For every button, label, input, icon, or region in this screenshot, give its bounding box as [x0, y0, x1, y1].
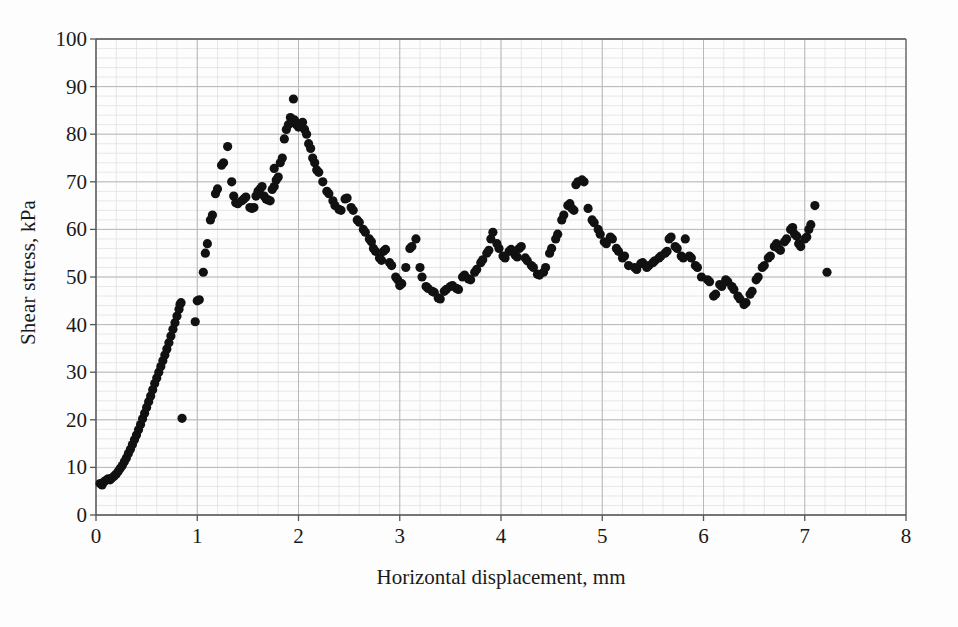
- x-axis-title: Horizontal displacement, mm: [96, 565, 906, 590]
- x-tick-label: 2: [293, 524, 304, 549]
- data-point: [278, 153, 287, 162]
- data-point: [381, 245, 390, 254]
- data-point: [547, 244, 556, 253]
- data-point: [711, 290, 720, 299]
- shear-stress-scatter-chart: Shear stress, kPa 0102030405060708090100…: [0, 0, 958, 627]
- data-point: [806, 220, 815, 229]
- data-point: [199, 268, 208, 277]
- data-point: [201, 249, 210, 258]
- data-point: [349, 206, 358, 215]
- data-point: [822, 268, 831, 277]
- data-point: [203, 239, 212, 248]
- data-point: [579, 177, 588, 186]
- data-point: [411, 234, 420, 243]
- x-tick-label: 0: [91, 524, 102, 549]
- data-point: [517, 242, 526, 251]
- data-point: [397, 279, 406, 288]
- data-point: [748, 287, 757, 296]
- data-point: [191, 317, 200, 326]
- data-point: [336, 206, 345, 215]
- data-point: [289, 94, 298, 103]
- data-point: [314, 168, 323, 177]
- data-point: [766, 251, 775, 260]
- data-point: [705, 277, 714, 286]
- data-point: [302, 130, 311, 139]
- data-point: [667, 232, 676, 241]
- data-point: [219, 158, 228, 167]
- data-point: [223, 142, 232, 151]
- data-point: [377, 256, 386, 265]
- data-point-series: [95, 94, 831, 489]
- data-point: [241, 192, 250, 201]
- data-point: [306, 144, 315, 153]
- data-point: [417, 272, 426, 281]
- data-point: [343, 193, 352, 202]
- x-tick-label: 5: [597, 524, 608, 549]
- data-point: [227, 177, 236, 186]
- x-tick-label: 4: [496, 524, 507, 549]
- data-point: [257, 182, 266, 191]
- data-point: [280, 134, 289, 143]
- data-point: [559, 211, 568, 220]
- data-point: [195, 295, 204, 304]
- x-axis-title-text: Horizontal displacement, mm: [376, 565, 625, 589]
- data-point: [415, 263, 424, 272]
- data-point: [754, 272, 763, 281]
- data-point: [620, 251, 629, 260]
- data-point: [176, 298, 185, 307]
- data-point: [266, 196, 275, 205]
- data-point: [274, 172, 283, 181]
- data-point: [249, 203, 258, 212]
- data-point: [513, 252, 522, 261]
- data-point: [693, 263, 702, 272]
- data-point: [541, 263, 550, 272]
- data-point: [608, 234, 617, 243]
- x-tick-label: 3: [395, 524, 406, 549]
- data-point: [782, 234, 791, 243]
- data-point: [662, 247, 671, 256]
- data-point: [569, 206, 578, 215]
- data-point: [387, 261, 396, 270]
- data-point: [810, 201, 819, 210]
- data-point: [488, 228, 497, 237]
- data-point: [454, 285, 463, 294]
- data-point: [681, 234, 690, 243]
- data-point: [776, 246, 785, 255]
- data-point: [553, 230, 562, 239]
- data-point: [177, 414, 186, 423]
- data-point: [583, 204, 592, 213]
- x-tick-label: 8: [901, 524, 912, 549]
- x-axis-tick-labels: 012345678: [0, 524, 958, 556]
- data-point: [484, 246, 493, 255]
- x-tick-label: 1: [192, 524, 203, 549]
- data-point: [213, 184, 222, 193]
- data-point: [208, 211, 217, 220]
- data-point: [318, 177, 327, 186]
- data-point: [741, 298, 750, 307]
- data-point: [401, 263, 410, 272]
- x-tick-label: 7: [800, 524, 811, 549]
- x-tick-label: 6: [698, 524, 709, 549]
